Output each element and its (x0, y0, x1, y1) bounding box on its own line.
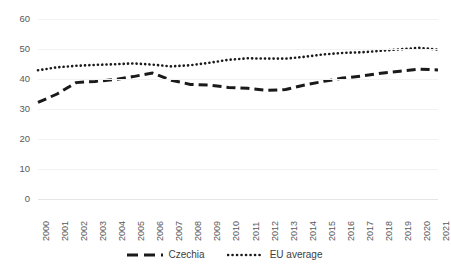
x-axis-tick-label: 2018 (385, 221, 394, 241)
gridline (38, 49, 438, 50)
x-axis-tick-label: 2009 (213, 221, 222, 241)
x-axis-tick-label: 2012 (271, 221, 280, 241)
chart-legend: CzechiaEU average (0, 250, 448, 260)
gridline (38, 109, 438, 110)
x-axis-tick-label: 2011 (252, 222, 261, 241)
y-axis-tick-label: 30 (2, 104, 30, 114)
x-axis-tick-label: 2002 (80, 221, 89, 241)
x-axis-tick-label: 2020 (423, 221, 432, 241)
gridline (38, 19, 438, 20)
gridline (38, 139, 438, 140)
y-axis-tick-label: 20 (2, 134, 30, 144)
x-axis-tick-label: 2021 (442, 221, 451, 241)
x-axis-tick-label: 2013 (290, 221, 299, 241)
x-axis-tick-label: 2004 (118, 221, 127, 241)
x-axis-tick-label: 2000 (42, 221, 51, 241)
legend-swatch-dotted-icon (227, 250, 265, 260)
legend-swatch-dashed-icon (126, 250, 164, 260)
x-axis-tick-label: 2007 (175, 221, 184, 241)
y-axis-tick-label: 50 (2, 44, 30, 54)
x-axis-tick-label: 2017 (366, 221, 375, 241)
y-axis-tick-label: 60 (2, 14, 30, 24)
x-axis-tick-label: 2014 (309, 221, 318, 241)
gridline (38, 169, 438, 170)
y-axis-tick-label: 10 (2, 164, 30, 174)
x-axis-tick-label: 2010 (232, 221, 241, 241)
series-line-czechia (38, 69, 438, 102)
x-axis-tick-label: 2015 (328, 221, 337, 241)
gridline (38, 199, 438, 200)
y-axis-tick-label: 40 (2, 74, 30, 84)
x-axis-tick-label: 2019 (404, 221, 413, 241)
y-axis-tick-label: 0 (2, 194, 30, 204)
series-line-eu-average (38, 48, 438, 71)
x-axis-tick-label: 2008 (194, 221, 203, 241)
x-axis-tick-label: 2006 (156, 221, 165, 241)
gridline (38, 79, 438, 80)
plot-area (38, 19, 438, 199)
legend-label: EU average (270, 250, 323, 260)
legend-label: Czechia (169, 250, 205, 260)
x-axis-tick-label: 2016 (347, 221, 356, 241)
x-axis-tick-label: 2003 (99, 221, 108, 241)
x-axis-tick-label: 2001 (61, 221, 70, 241)
legend-item-czechia[interactable]: Czechia (126, 250, 205, 260)
legend-item-eu-average[interactable]: EU average (227, 250, 323, 260)
x-axis-tick-label: 2005 (137, 221, 146, 241)
